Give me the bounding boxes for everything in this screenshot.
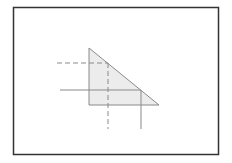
diagram-svg: [0, 0, 232, 163]
diagram-canvas: [0, 0, 232, 163]
right-triangle: [89, 48, 159, 105]
